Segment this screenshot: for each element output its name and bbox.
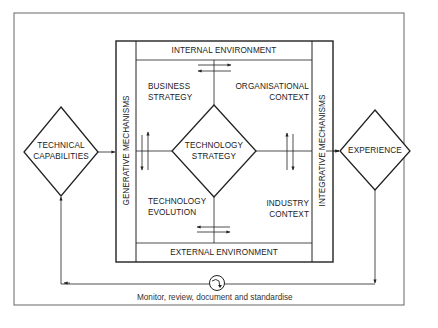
- technical-capabilities-line1: TECHNICAL: [22, 140, 100, 151]
- organisational-context-label: ORGANISATIONAL CONTEXT: [215, 81, 309, 103]
- technology-evolution-line1: TECHNOLOGY: [148, 196, 206, 207]
- organisational-context-line2: CONTEXT: [215, 92, 309, 103]
- organisational-context-line1: ORGANISATIONAL: [215, 81, 309, 92]
- cycle-arrow-icon: [210, 276, 225, 291]
- technology-strategy-line1: TECHNOLOGY: [172, 140, 256, 151]
- technical-capabilities-line2: CAPABILITIES: [22, 151, 100, 162]
- technology-evolution-label: TECHNOLOGY EVOLUTION: [148, 196, 206, 218]
- external-environment-label: EXTERNAL ENVIRONMENT: [136, 247, 312, 258]
- technology-strategy-line2: STRATEGY: [172, 151, 256, 162]
- business-strategy-line2: STRATEGY: [148, 92, 192, 103]
- industry-context-label: INDUSTRY CONTEXT: [230, 198, 309, 220]
- technical-capabilities-label: TECHNICAL CAPABILITIES: [22, 140, 100, 162]
- business-strategy-line1: BUSINESS: [148, 81, 192, 92]
- business-strategy-label: BUSINESS STRATEGY: [148, 81, 192, 103]
- generative-mechanisms-label: GENERATIVE MECHANISMS: [122, 91, 131, 211]
- internal-environment-label: INTERNAL ENVIRONMENT: [136, 45, 312, 56]
- experience-label: EXPERIENCE: [340, 145, 410, 156]
- industry-context-line2: CONTEXT: [230, 209, 309, 220]
- integrative-mechanisms-label: INTEGRATIVE MECHANISMS: [318, 91, 327, 211]
- technology-strategy-label: TECHNOLOGY STRATEGY: [172, 140, 256, 162]
- technology-evolution-line2: EVOLUTION: [148, 207, 206, 218]
- industry-context-line1: INDUSTRY: [230, 198, 309, 209]
- feedback-loop-label: Monitor, review, document and standardis…: [137, 293, 293, 302]
